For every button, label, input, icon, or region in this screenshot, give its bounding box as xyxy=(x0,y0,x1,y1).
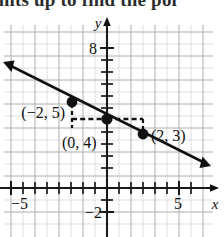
point-label-2-3: (2, 3) xyxy=(151,127,186,145)
x-axis-arrow-icon xyxy=(210,184,219,192)
y-tick-label-8: 8 xyxy=(89,40,97,57)
point-marker-neg2-5 xyxy=(67,97,78,108)
coordinate-plane-figure: y x 8 −2 −5 5 (−2, 5) (0, 4) (2, 3) xyxy=(0,13,224,237)
point-label-0-4: (0, 4) xyxy=(62,134,97,152)
y-axis-label: y xyxy=(93,15,102,31)
x-tick-label-neg5: −5 xyxy=(11,195,28,212)
y-axis xyxy=(103,17,111,237)
x-axis xyxy=(0,184,219,192)
line-arrow-upper-left-icon xyxy=(3,61,15,73)
x-axis-label: x xyxy=(211,196,219,212)
y-tick-label-neg2: −2 xyxy=(85,204,102,221)
x-tick-label-5: 5 xyxy=(174,195,182,212)
cropped-header-text-content: units up to find the poi xyxy=(0,0,177,11)
point-marker-0-4 xyxy=(101,113,112,124)
y-axis-arrow-icon xyxy=(103,17,111,26)
point-label-neg2-5: (−2, 5) xyxy=(21,104,65,122)
graph-canvas: y x 8 −2 −5 5 (−2, 5) (0, 4) (2, 3) xyxy=(0,13,224,237)
point-marker-2-3 xyxy=(138,129,149,140)
line-arrow-lower-right-icon xyxy=(200,157,212,169)
cropped-header-text: units up to find the poi xyxy=(0,0,224,13)
